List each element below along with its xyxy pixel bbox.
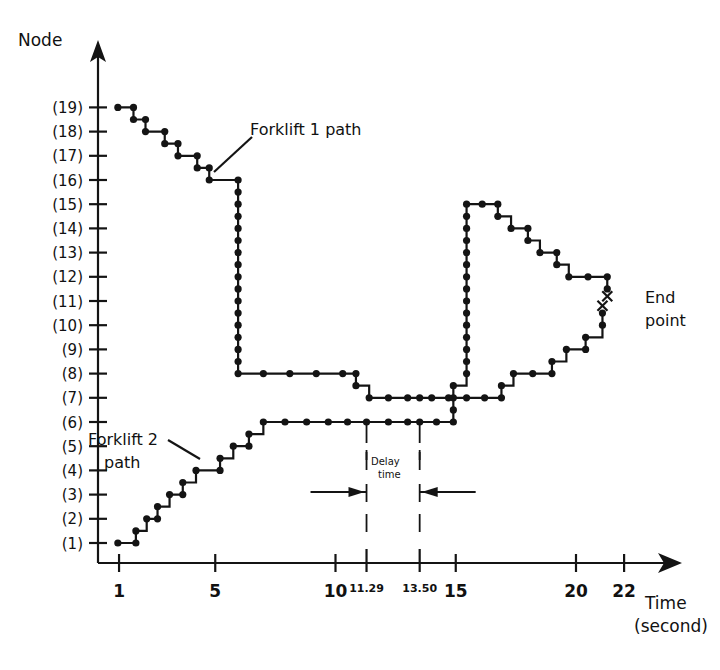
series-1-marker-29 xyxy=(234,370,241,377)
series-2-marker-2 xyxy=(132,527,139,534)
series-2-marker-22 xyxy=(404,418,411,425)
series-1-marker-20 xyxy=(234,261,241,268)
y-tick-label-17: (17) xyxy=(52,147,83,165)
series-1-marker-38 xyxy=(404,394,411,401)
series-1-marker-12 xyxy=(206,176,213,183)
x-tick-label-5: 5 xyxy=(209,581,221,601)
series-1-marker-0 xyxy=(114,104,121,111)
series-1-marker-44 xyxy=(498,394,505,401)
series-1-marker-4 xyxy=(142,128,149,135)
series-2-marker-19 xyxy=(344,418,351,425)
series-1-marker-32 xyxy=(313,370,320,377)
series-2-marker-27 xyxy=(450,394,457,401)
series-2-marker-26 xyxy=(450,406,457,413)
series-1-marker-50 xyxy=(563,346,570,353)
series-2-marker-1 xyxy=(132,539,139,546)
series-2-marker-3 xyxy=(143,515,150,522)
chart-background xyxy=(0,0,720,670)
series-2-marker-37 xyxy=(463,273,470,280)
series-2-marker-0 xyxy=(114,539,121,546)
x-tick-label-22: 22 xyxy=(612,581,636,601)
series-2-marker-39 xyxy=(463,249,470,256)
series-1-marker-52 xyxy=(582,334,589,341)
series-2-marker-56 xyxy=(604,285,611,292)
series-1-marker-49 xyxy=(548,358,555,365)
series-1-marker-28 xyxy=(234,358,241,365)
series-1-marker-37 xyxy=(385,394,392,401)
series-2-marker-10 xyxy=(216,467,223,474)
series-1-marker-22 xyxy=(234,285,241,292)
series-1-marker-14 xyxy=(234,189,241,196)
series-1-marker-43 xyxy=(481,394,488,401)
x-tick-label-15: 15 xyxy=(444,581,468,601)
series-2-marker-6 xyxy=(166,491,173,498)
series-2-marker-7 xyxy=(179,491,186,498)
series-1-marker-35 xyxy=(352,382,359,389)
y-tick-label-8: (8) xyxy=(62,365,83,383)
series-2-marker-48 xyxy=(524,225,531,232)
y-tick-label-10: (10) xyxy=(52,317,83,335)
series-2-marker-8 xyxy=(179,479,186,486)
series-2-marker-31 xyxy=(463,346,470,353)
y-tick-label-7: (7) xyxy=(62,389,83,407)
series-2-marker-43 xyxy=(463,201,470,208)
series-2-marker-13 xyxy=(245,443,252,450)
y-tick-label-5: (5) xyxy=(62,438,83,456)
series-2-marker-46 xyxy=(494,213,501,220)
series-1-marker-1 xyxy=(130,104,137,111)
series-1-marker-13 xyxy=(234,176,241,183)
series-2-marker-44 xyxy=(479,201,486,208)
series-1-marker-39 xyxy=(416,394,423,401)
series-2-marker-17 xyxy=(303,418,310,425)
series-2-marker-50 xyxy=(536,249,543,256)
series-1-marker-47 xyxy=(529,370,536,377)
y-tick-label-9: (9) xyxy=(62,341,83,359)
y-tick-label-19: (19) xyxy=(52,99,83,117)
y-tick-label-18: (18) xyxy=(52,123,83,141)
series-2-marker-18 xyxy=(325,418,332,425)
y-tick-label-16: (16) xyxy=(52,172,83,190)
series-1-marker-30 xyxy=(260,370,267,377)
series-2-marker-15 xyxy=(260,418,267,425)
series-1-marker-6 xyxy=(161,140,168,147)
series-2-marker-28 xyxy=(450,382,457,389)
series-1-marker-5 xyxy=(161,128,168,135)
series-2-marker-29 xyxy=(463,370,470,377)
series-1-marker-36 xyxy=(366,394,373,401)
series-1-marker-27 xyxy=(234,346,241,353)
series-1-marker-19 xyxy=(234,249,241,256)
x-axis-subtitle: (second) xyxy=(634,616,708,636)
y-axis-title: Node xyxy=(18,30,62,50)
y-tick-label-6: (6) xyxy=(62,414,83,432)
series-1-marker-42 xyxy=(463,394,470,401)
series-2-marker-51 xyxy=(553,249,560,256)
series-2-marker-52 xyxy=(553,261,560,268)
series-2-marker-24 xyxy=(433,418,440,425)
series-2-marker-4 xyxy=(154,515,161,522)
y-tick-label-2: (2) xyxy=(62,510,83,528)
series-2-marker-55 xyxy=(604,273,611,280)
series-1-marker-34 xyxy=(352,370,359,377)
series-1-marker-48 xyxy=(548,370,555,377)
series-1-marker-10 xyxy=(194,164,201,171)
series-2-marker-30 xyxy=(463,358,470,365)
series-2-marker-23 xyxy=(416,418,423,425)
series-1-marker-53 xyxy=(599,322,606,329)
series-1-marker-40 xyxy=(428,394,435,401)
series-1-marker-45 xyxy=(498,382,505,389)
series-1-marker-15 xyxy=(234,201,241,208)
x-tick-label-13.50: 13.50 xyxy=(402,582,437,595)
series-1-marker-16 xyxy=(234,213,241,220)
x-axis-title: Time xyxy=(644,593,687,613)
series-1-marker-11 xyxy=(206,164,213,171)
series-2-marker-42 xyxy=(463,213,470,220)
series-2-marker-32 xyxy=(463,334,470,341)
series-1-marker-46 xyxy=(510,370,517,377)
endpoint-annotation-line1: End xyxy=(645,288,675,307)
series-1-marker-21 xyxy=(234,273,241,280)
series-1-marker-54 xyxy=(599,310,606,317)
y-tick-label-1: (1) xyxy=(62,535,83,553)
y-tick-label-4: (4) xyxy=(62,462,83,480)
series-2-marker-21 xyxy=(385,418,392,425)
series-2-marker-54 xyxy=(584,273,591,280)
